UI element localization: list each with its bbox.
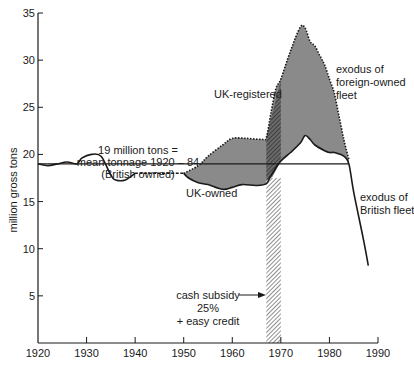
- arrow-right-icon: [258, 292, 266, 298]
- shipping-tonnage-chart: 5101520253035 19201930194019501960197019…: [0, 0, 414, 367]
- y-tick-label: 30: [23, 54, 35, 66]
- subsidy-hatched-bar: [266, 178, 281, 343]
- y-tick-label: 15: [23, 196, 35, 208]
- y-tick-label: 20: [23, 148, 35, 160]
- uk-owned-label: UK-owned: [186, 187, 237, 199]
- mean-annotation-line-1: 19 million tons =: [98, 144, 178, 156]
- x-tick-label: 1940: [123, 347, 147, 359]
- y-tick-label: 10: [23, 243, 35, 255]
- x-tick-label: 1970: [269, 347, 293, 359]
- subsidy-line-2: 25%: [197, 302, 219, 314]
- subsidy-annotation: cash subsidy 25% + easy credit: [176, 289, 266, 327]
- x-tick-label: 1930: [74, 347, 98, 359]
- exodus-foreign-line-2: foreign-owned: [336, 76, 406, 88]
- mean-annotation-line-2: mean tonnage 1920 – 84: [77, 156, 199, 168]
- exodus-british-annotation: exodus of British fleet: [360, 191, 414, 216]
- x-tick-label: 1950: [171, 347, 195, 359]
- y-tick-label: 35: [23, 7, 35, 19]
- exodus-british-line-2: British fleet: [360, 204, 414, 216]
- mean-annotation-line-3: (British owned): [101, 168, 174, 180]
- x-tick-label: 1980: [317, 347, 341, 359]
- uk-registered-label: UK-registered: [214, 88, 282, 100]
- x-axis: 19201930194019501960197019801990: [26, 337, 390, 359]
- exodus-foreign-line-1: exodus of: [336, 63, 385, 75]
- exodus-foreign-line-3: fleet: [336, 89, 357, 101]
- exodus-foreign-annotation: exodus of foreign-owned fleet: [336, 63, 406, 101]
- y-tick-label: 5: [29, 290, 35, 302]
- mean-annotation: 19 million tons = mean tonnage 1920 – 84…: [77, 144, 199, 180]
- y-tick-label: 25: [23, 101, 35, 113]
- x-tick-label: 1990: [366, 347, 390, 359]
- y-axis-label: million gross tons: [7, 147, 19, 232]
- x-tick-label: 1920: [26, 347, 50, 359]
- exodus-british-line-1: exodus of: [360, 191, 409, 203]
- x-tick-label: 1960: [220, 347, 244, 359]
- y-axis: 5101520253035: [23, 7, 43, 343]
- subsidy-line-1: cash subsidy: [176, 289, 240, 301]
- subsidy-line-3: + easy credit: [177, 315, 240, 327]
